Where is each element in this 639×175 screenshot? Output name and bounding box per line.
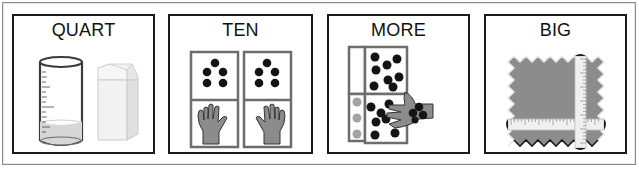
symbol-card-more[interactable]: MORE — [327, 14, 470, 154]
light-counters — [353, 98, 362, 139]
measuring-cup-and-milk-carton-icon — [14, 16, 153, 152]
fabric-with-tape-measure-icon — [486, 16, 625, 152]
symbol-card-big[interactable]: BIG — [484, 14, 627, 154]
ten-fingers-dots-icon — [170, 16, 311, 152]
hand-adding-counters-icon — [329, 16, 468, 152]
vertical-tape-measure — [575, 54, 586, 150]
fabric-swatch — [508, 56, 604, 146]
left-hand-panel — [191, 52, 238, 147]
measuring-cup-icon — [40, 57, 82, 145]
milk-carton-icon — [98, 64, 138, 140]
symbol-card-ten[interactable]: TEN — [168, 14, 313, 154]
cropped-caption — [0, 166, 639, 175]
horizontal-tape-measure — [506, 119, 606, 130]
right-hand-panel — [244, 52, 291, 147]
symbol-card-quart[interactable]: QUART — [12, 14, 155, 154]
